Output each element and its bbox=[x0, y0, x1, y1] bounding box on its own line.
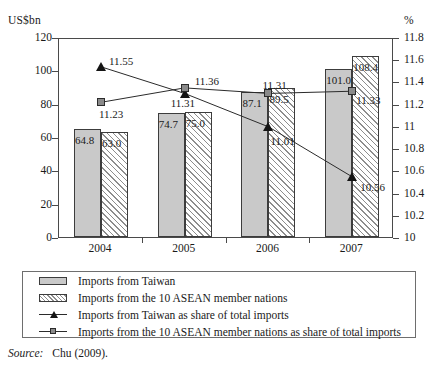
right-axis-tick-label: 10.2 bbox=[404, 210, 439, 221]
left-axis-title: US$bn bbox=[8, 14, 41, 26]
triangle-marker-icon[interactable] bbox=[96, 62, 106, 71]
bar-value-label: 74.7 bbox=[159, 118, 178, 130]
legend-hatched-swatch-icon bbox=[37, 292, 71, 304]
left-axis-tick-label: 20 bbox=[6, 199, 52, 210]
x-axis-tick-label: 2006 bbox=[232, 242, 302, 254]
legend-item-label: Imports from Taiwan bbox=[78, 275, 175, 288]
right-axis-tick-label: 11.6 bbox=[404, 54, 439, 65]
left-axis-tick-label: 80 bbox=[6, 99, 52, 110]
left-axis-tick-label: 100 bbox=[6, 65, 52, 76]
data-point-label: 11.01 bbox=[270, 135, 294, 147]
bar-value-label: 89.5 bbox=[269, 93, 288, 105]
data-point-label: 11.36 bbox=[195, 75, 219, 87]
left-axis-tick-label: 120 bbox=[6, 32, 52, 43]
left-axis-tick-label: 40 bbox=[6, 165, 52, 176]
legend-solid-swatch-icon bbox=[37, 275, 71, 287]
right-axis-tick-mark bbox=[393, 194, 399, 195]
legend-item-label: Imports from the 10 ASEAN member nations… bbox=[78, 326, 401, 339]
bar-asean[interactable] bbox=[352, 56, 379, 237]
legend-line-square-icon bbox=[37, 326, 71, 338]
bar-asean[interactable] bbox=[268, 88, 295, 237]
data-point-label: 11.33 bbox=[356, 94, 380, 106]
legend-item-label: Imports from the 10 ASEAN member nations bbox=[78, 292, 288, 305]
right-axis-tick-mark bbox=[393, 60, 399, 61]
right-axis-tick-label: 10 bbox=[404, 232, 439, 243]
x-axis-tick-label: 2007 bbox=[316, 242, 386, 254]
data-point-label: 11.55 bbox=[109, 55, 133, 67]
right-axis-tick-mark bbox=[393, 82, 399, 83]
square-marker-icon[interactable] bbox=[97, 98, 105, 106]
right-axis-tick-label: 11.8 bbox=[404, 32, 439, 43]
legend-line-triangle-icon bbox=[37, 309, 71, 321]
x-axis-tick-label: 2004 bbox=[65, 242, 135, 254]
source-label: Source: bbox=[8, 347, 43, 359]
line-asean-share bbox=[101, 88, 352, 102]
bar-value-label: 63.0 bbox=[102, 137, 121, 149]
x-axis-tick-mark bbox=[142, 238, 143, 243]
right-axis-tick-mark bbox=[393, 171, 399, 172]
bar-value-label: 64.8 bbox=[75, 134, 94, 146]
legend-item-asean-share[interactable]: Imports from the 10 ASEAN member nations… bbox=[23, 324, 415, 340]
right-axis-tick-mark bbox=[393, 38, 399, 39]
left-axis-tick-label: 0 bbox=[6, 232, 52, 243]
right-axis-tick-mark bbox=[393, 149, 399, 150]
x-axis-tick-mark bbox=[309, 238, 310, 243]
right-axis-title: % bbox=[404, 14, 414, 26]
bar-value-label: 75.0 bbox=[186, 117, 205, 129]
triangle-marker-icon[interactable] bbox=[347, 172, 357, 181]
chart-plot-area: 11.5511.3111.0110.5611.2311.3611.3111.33… bbox=[58, 38, 393, 238]
bar-taiwan[interactable] bbox=[241, 92, 268, 237]
right-axis-tick-label: 11 bbox=[404, 121, 439, 132]
data-point-label: 10.56 bbox=[360, 181, 385, 193]
x-axis-tick-mark bbox=[226, 238, 227, 243]
legend-item-taiwan-share[interactable]: Imports from Taiwan as share of total im… bbox=[23, 307, 415, 323]
right-axis-tick-label: 11.4 bbox=[404, 76, 439, 87]
bar-value-label: 87.1 bbox=[242, 97, 261, 109]
square-marker-icon[interactable] bbox=[348, 87, 356, 95]
right-axis-tick-label: 10.6 bbox=[404, 165, 439, 176]
legend-item-imports-taiwan[interactable]: Imports from Taiwan bbox=[23, 273, 415, 289]
legend-item-imports-asean[interactable]: Imports from the 10 ASEAN member nations bbox=[23, 290, 415, 306]
right-axis-tick-mark bbox=[393, 127, 399, 128]
right-axis-tick-mark bbox=[393, 105, 399, 106]
right-axis-tick-label: 10.4 bbox=[404, 188, 439, 199]
right-axis-tick-mark bbox=[393, 238, 399, 239]
triangle-marker-icon[interactable] bbox=[263, 122, 273, 131]
data-point-label: 11.31 bbox=[171, 97, 195, 109]
source-note: Source:Chu (2009). bbox=[8, 347, 108, 359]
data-point-label: 11.23 bbox=[99, 108, 123, 120]
legend-item-label: Imports from Taiwan as share of total im… bbox=[78, 309, 289, 322]
bar-taiwan[interactable] bbox=[158, 113, 185, 238]
bar-asean[interactable] bbox=[185, 112, 212, 237]
square-marker-icon[interactable] bbox=[181, 84, 189, 92]
left-axis-tick-label: 60 bbox=[6, 132, 52, 143]
right-axis-tick-label: 10.8 bbox=[404, 143, 439, 154]
bar-value-label: 108.4 bbox=[353, 61, 378, 73]
x-axis-tick-label: 2005 bbox=[149, 242, 219, 254]
source-citation: Chu (2009). bbox=[52, 347, 108, 359]
line-taiwan-share bbox=[101, 67, 352, 177]
data-point-label: 11.31 bbox=[262, 79, 286, 91]
bar-value-label: 101.0 bbox=[326, 74, 351, 86]
left-axis-tick-mark bbox=[52, 238, 58, 239]
right-axis-tick-label: 11.2 bbox=[404, 99, 439, 110]
plot-inner: 11.5511.3111.0110.5611.2311.3611.3111.33… bbox=[59, 39, 392, 237]
chart-legend: Imports from Taiwan Imports from the 10 … bbox=[22, 271, 416, 338]
right-axis-tick-mark bbox=[393, 216, 399, 217]
